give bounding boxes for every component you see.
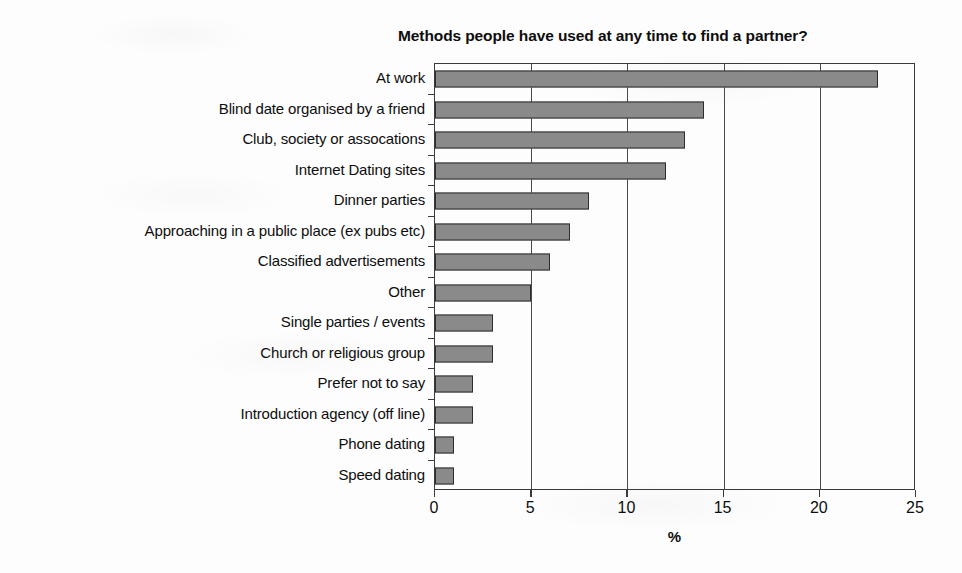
bar	[435, 315, 493, 332]
bar-row	[435, 186, 914, 217]
x-axis-tick-20	[819, 490, 820, 497]
x-axis-title: %	[434, 528, 915, 545]
x-axis-tick-label-10: 10	[604, 499, 648, 517]
x-axis-tick-label-0: 0	[412, 499, 456, 517]
bar-row	[435, 217, 914, 248]
y-axis-label: Prefer not to say	[317, 368, 425, 399]
bar-row	[435, 156, 914, 187]
y-axis-label: Other	[388, 277, 425, 308]
bar-row	[435, 278, 914, 309]
bar	[435, 254, 550, 271]
y-axis-label: Club, society or assocations	[242, 124, 425, 155]
y-axis-label: Classified advertisements	[258, 246, 425, 277]
x-axis-tick-label-5: 5	[508, 499, 552, 517]
bar	[435, 223, 570, 240]
x-axis-tick-0	[434, 490, 435, 497]
bar	[435, 467, 454, 484]
bar-row	[435, 308, 914, 339]
bar-row	[435, 64, 914, 95]
bar	[435, 437, 454, 454]
bar-row	[435, 400, 914, 431]
bar-row	[435, 95, 914, 126]
plot-area	[434, 63, 915, 490]
y-axis-tick	[428, 277, 434, 278]
y-axis-label: Dinner parties	[334, 185, 425, 216]
bar-row	[435, 461, 914, 492]
y-axis-tick	[428, 185, 434, 186]
y-axis-category-labels: At workBlind date organised by a friendC…	[0, 63, 425, 490]
y-axis-label: Single parties / events	[281, 307, 425, 338]
bar-chart-figure: Methods people have used at any time to …	[0, 0, 962, 573]
y-axis-tick	[428, 429, 434, 430]
x-axis-tick-10	[626, 490, 627, 497]
bar-row	[435, 339, 914, 370]
bar	[435, 193, 589, 210]
y-axis-label: At work	[376, 63, 425, 94]
bar	[435, 345, 493, 362]
y-axis-label: Church or religious group	[260, 338, 425, 369]
bar	[435, 162, 666, 179]
y-axis-tick	[428, 399, 434, 400]
x-axis-tick-label-15: 15	[701, 499, 745, 517]
y-axis-label: Speed dating	[338, 460, 425, 491]
y-axis-label: Blind date organised by a friend	[219, 94, 425, 125]
y-axis-tick	[428, 368, 434, 369]
y-axis-label: Introduction agency (off line)	[240, 399, 425, 430]
bar-row	[435, 125, 914, 156]
bar	[435, 284, 531, 301]
y-axis-tick	[428, 246, 434, 247]
bar	[435, 376, 473, 393]
y-axis-tick	[428, 216, 434, 217]
bar	[435, 101, 704, 118]
y-axis-tick	[428, 338, 434, 339]
y-axis-tick	[428, 460, 434, 461]
bar-row	[435, 247, 914, 278]
chart-title: Methods people have used at any time to …	[398, 27, 958, 45]
x-axis-tick-5	[530, 490, 531, 497]
bar	[435, 406, 473, 423]
y-axis-label: Approaching in a public place (ex pubs e…	[145, 216, 425, 247]
bar	[435, 71, 878, 88]
y-axis-tick	[428, 307, 434, 308]
bar	[435, 132, 685, 149]
bars-layer	[435, 64, 914, 489]
x-axis-tick-25	[915, 490, 916, 497]
bar-row	[435, 430, 914, 461]
x-axis-tick-label-25: 25	[893, 499, 937, 517]
bar-row	[435, 369, 914, 400]
x-axis-tick-15	[723, 490, 724, 497]
y-axis-tick	[428, 94, 434, 95]
y-axis-label: Internet Dating sites	[295, 155, 425, 186]
y-axis-tick	[428, 124, 434, 125]
y-axis-label: Phone dating	[338, 429, 425, 460]
x-axis-tick-label-20: 20	[797, 499, 841, 517]
y-axis-tick	[428, 155, 434, 156]
